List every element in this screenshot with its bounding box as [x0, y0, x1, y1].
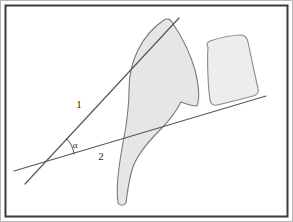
- label-line-1: 1: [76, 98, 82, 110]
- angle-diagram-canvas: 1 2 α: [0, 0, 293, 222]
- label-line-2: 2: [98, 150, 104, 162]
- label-angle-alpha: α: [73, 140, 78, 150]
- figure-frame: 1 2 α: [0, 0, 293, 222]
